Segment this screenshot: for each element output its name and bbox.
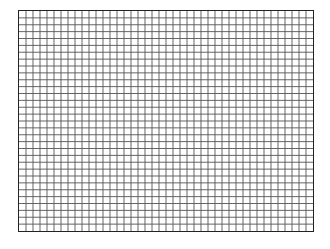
graph-paper-canvas: [0, 0, 330, 249]
grid-lines: [19, 11, 313, 231]
grid-area: [18, 10, 314, 232]
